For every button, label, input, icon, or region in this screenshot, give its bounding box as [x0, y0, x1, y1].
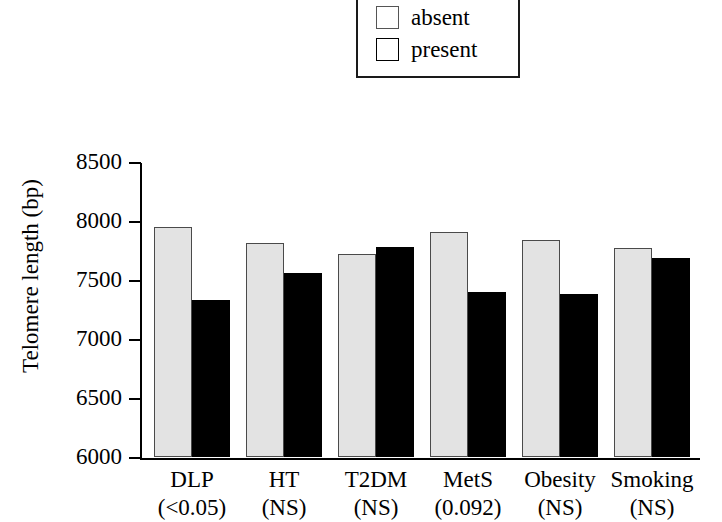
x-axis-line: [140, 458, 700, 460]
x-axis-label-mets: MetS(0.092): [422, 466, 514, 522]
chart-plot-area: 850080007500700065006000 DLP(<0.05)HT(NS…: [140, 163, 700, 458]
y-axis-tick-label: 8500: [76, 147, 122, 177]
bar-mets-present: [468, 292, 506, 457]
y-axis-tick-label: 7500: [76, 265, 122, 295]
legend-label-absent: absent: [411, 6, 470, 29]
legend: absent present: [356, 0, 520, 78]
y-axis-tick: 8500: [129, 162, 141, 164]
y-axis-tick: 6500: [129, 398, 141, 400]
category-pvalue: (<0.05): [146, 494, 238, 522]
category-name: Obesity: [514, 466, 606, 494]
y-axis-tick-label: 8000: [76, 206, 122, 236]
category-pvalue: (0.092): [422, 494, 514, 522]
category-pvalue: (NS): [606, 494, 698, 522]
y-axis-tick-label: 6500: [76, 383, 122, 413]
category-name: MetS: [422, 466, 514, 494]
legend-label-present: present: [411, 38, 477, 61]
category-name: DLP: [146, 466, 238, 494]
x-axis-label-ht: HT(NS): [238, 466, 330, 522]
bar-t2dm-present: [376, 247, 414, 457]
y-axis-tick-label: 6000: [76, 442, 122, 472]
bar-ht-present: [284, 273, 322, 457]
y-axis-tick: 7500: [129, 280, 141, 282]
x-axis-label-obesity: Obesity(NS): [514, 466, 606, 522]
category-name: HT: [238, 466, 330, 494]
legend-item-present: present: [376, 38, 477, 61]
category-name: T2DM: [330, 466, 422, 494]
category-pvalue: (NS): [238, 494, 330, 522]
bar-ht-absent: [246, 243, 284, 457]
bar-dlp-absent: [154, 227, 192, 457]
x-axis-label-smoking: Smoking(NS): [606, 466, 698, 522]
category-pvalue: (NS): [330, 494, 422, 522]
bar-smoking-absent: [614, 248, 652, 457]
y-axis-tick: 6000: [129, 457, 141, 459]
y-axis-title: Telomere length (bp): [14, 116, 48, 436]
bar-obesity-present: [560, 294, 598, 457]
y-axis-line: [140, 163, 142, 459]
square-swatch-icon: [376, 38, 399, 61]
bar-smoking-present: [652, 258, 690, 457]
bar-mets-absent: [430, 232, 468, 457]
legend-item-absent: absent: [376, 6, 470, 29]
y-axis-tick-label: 7000: [76, 324, 122, 354]
bar-t2dm-absent: [338, 254, 376, 457]
x-axis-label-dlp: DLP(<0.05): [146, 466, 238, 522]
category-name: Smoking: [606, 466, 698, 494]
bar-dlp-present: [192, 300, 230, 457]
y-axis-tick: 8000: [129, 221, 141, 223]
x-axis-label-t2dm: T2DM(NS): [330, 466, 422, 522]
y-axis-tick: 7000: [129, 339, 141, 341]
square-swatch-icon: [376, 6, 399, 29]
category-pvalue: (NS): [514, 494, 606, 522]
bar-obesity-absent: [522, 240, 560, 457]
